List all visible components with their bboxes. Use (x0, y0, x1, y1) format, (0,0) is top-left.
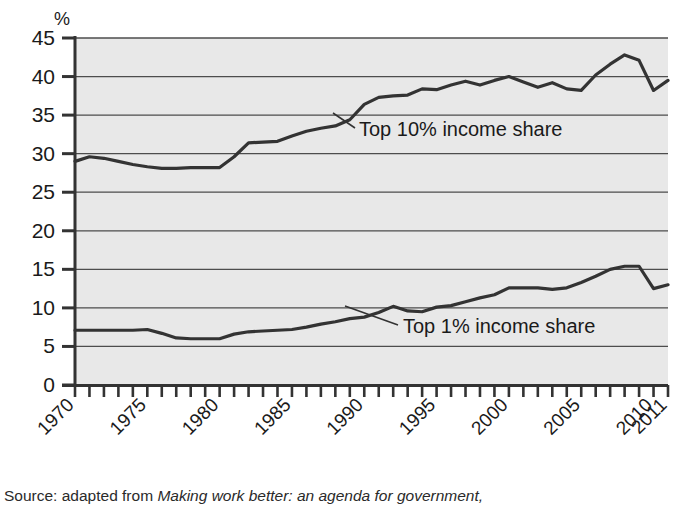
chart-canvas: 051015202530354045 197019751980198519901… (0, 0, 699, 520)
top10-annotation-label: Top 10% income share (359, 118, 562, 140)
x-tick-label: 1995 (395, 394, 440, 439)
y-tick-label: 25 (32, 180, 55, 203)
y-tick-label: 10 (32, 296, 55, 319)
x-tick-label: 1975 (105, 394, 150, 439)
y-tick-label: 15 (32, 257, 55, 280)
chart-figure: 051015202530354045 197019751980198519901… (0, 0, 699, 520)
y-tick-label: 40 (32, 65, 55, 88)
x-tick-label: 1985 (250, 394, 295, 439)
x-tick-label: 1980 (178, 394, 223, 439)
y-tick-label: 30 (32, 142, 55, 165)
y-ticks-group: 051015202530354045 (32, 26, 75, 396)
y-tick-label: 0 (43, 373, 55, 396)
top1-annotation-label: Top 1% income share (403, 315, 595, 337)
x-tick-label: 1990 (322, 394, 367, 439)
y-axis-unit-label: % (54, 9, 70, 29)
source-note: Source: adapted from Making work better:… (4, 487, 694, 505)
x-tick-label: 1970 (33, 394, 78, 439)
y-tick-label: 45 (32, 26, 55, 49)
x-tick-labels-group: 1970197519801985199019952000200520102011 (33, 394, 671, 439)
source-title: Making work better: an agenda for govern… (157, 487, 483, 504)
x-tick-label: 2000 (467, 394, 512, 439)
source-prefix: Source: adapted from (4, 487, 157, 504)
y-tick-label: 20 (32, 219, 55, 242)
x-tick-label: 2005 (539, 394, 584, 439)
y-tick-label: 35 (32, 103, 55, 126)
y-tick-label: 5 (43, 334, 55, 357)
